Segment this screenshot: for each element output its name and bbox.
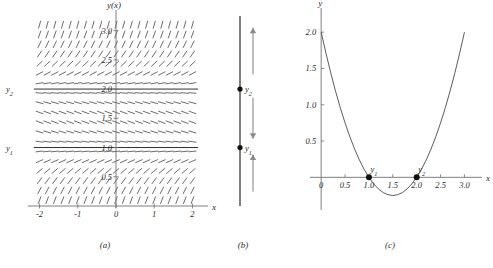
svg-text:1.0: 1.0 — [364, 180, 375, 190]
panel-c-x-axis-label: x — [485, 173, 490, 183]
svg-text:0.5: 0.5 — [340, 180, 351, 190]
svg-text:0: 0 — [114, 209, 119, 219]
panel-c-tick-marks — [321, 32, 464, 177]
panel-b-caption: (b) — [223, 240, 263, 250]
svg-text:3.0: 3.0 — [100, 26, 112, 36]
svg-text:2.5: 2.5 — [435, 180, 446, 190]
svg-text:1.0: 1.0 — [306, 100, 317, 110]
phase-line-arrows — [250, 28, 256, 192]
svg-text:3.0: 3.0 — [458, 180, 470, 190]
figure-container: -2-1012 0.51.01.52.02.53.0 y1y2 y(x) x (… — [0, 0, 493, 268]
panel-c-x-tick-labels: 00.51.01.52.02.53.0 — [319, 180, 470, 190]
svg-text:-1: -1 — [74, 209, 81, 219]
svg-text:1: 1 — [152, 209, 156, 219]
svg-text:1.5: 1.5 — [306, 63, 317, 73]
svg-text:1.0: 1.0 — [101, 143, 112, 153]
svg-text:0.5: 0.5 — [306, 136, 317, 146]
svg-text:y1: y1 — [244, 143, 252, 156]
phase-line-labels: y1y2 — [244, 84, 252, 155]
panel-a-caption: (a) — [85, 240, 125, 250]
svg-text:1.5: 1.5 — [101, 113, 112, 123]
svg-text:1.5: 1.5 — [387, 180, 398, 190]
phase-line-svg: y1y2 — [212, 0, 282, 232]
svg-text:0.5: 0.5 — [101, 172, 112, 182]
svg-text:y1: y1 — [5, 143, 13, 156]
panel-c-caption: (c) — [370, 240, 410, 250]
svg-text:2.0: 2.0 — [101, 84, 112, 94]
parabola-curve — [321, 32, 464, 195]
slope-field-svg: -2-1012 0.51.01.52.02.53.0 y1y2 y(x) x — [0, 0, 212, 232]
panel-a-y-axis-label: y(x) — [106, 0, 121, 10]
svg-text:y2: y2 — [5, 84, 13, 97]
svg-text:2: 2 — [190, 209, 195, 219]
panel-a-equilibrium-labels: y1y2 — [5, 84, 13, 155]
panel-a-x-tick-labels: -2-1012 — [36, 209, 195, 219]
parabola-svg: 00.51.01.52.02.53.0 0.51.01.52.0 y1y2 y … — [284, 0, 493, 232]
svg-text:2.0: 2.0 — [306, 27, 317, 37]
panel-c-y-tick-labels: 0.51.01.52.0 — [306, 27, 317, 146]
panel-c-y-axis-label: y — [317, 0, 322, 8]
panel-a-slope-field: -2-1012 0.51.01.52.02.53.0 y1y2 y(x) x — [0, 0, 212, 232]
svg-text:-2: -2 — [36, 209, 44, 219]
svg-text:2.5: 2.5 — [101, 55, 112, 65]
svg-text:0: 0 — [319, 180, 324, 190]
svg-text:y2: y2 — [244, 84, 252, 97]
panel-b-phase-line: y1y2 — [212, 0, 282, 232]
panel-c-parabola: 00.51.01.52.02.53.0 0.51.01.52.0 y1y2 y … — [284, 0, 493, 232]
